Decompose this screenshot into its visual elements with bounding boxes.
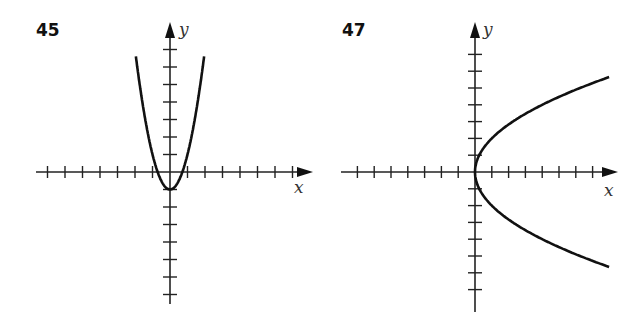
axes <box>36 22 313 304</box>
plot-area: x y <box>0 0 322 325</box>
graph-47: 47 x y <box>322 0 644 325</box>
x-axis-arrow-icon <box>297 167 313 177</box>
x-axis-label: x <box>294 177 304 197</box>
x-axis-label: x <box>604 180 614 200</box>
x-axis-arrow-icon <box>602 167 618 177</box>
plot-area: x y <box>322 0 644 325</box>
y-axis-label: y <box>178 19 189 39</box>
axes <box>341 22 618 312</box>
y-axis-arrow-icon <box>470 22 480 38</box>
y-axis-arrow-icon <box>165 22 175 38</box>
graph-45: 45 x y <box>0 0 322 325</box>
y-axis-label: y <box>482 19 493 39</box>
